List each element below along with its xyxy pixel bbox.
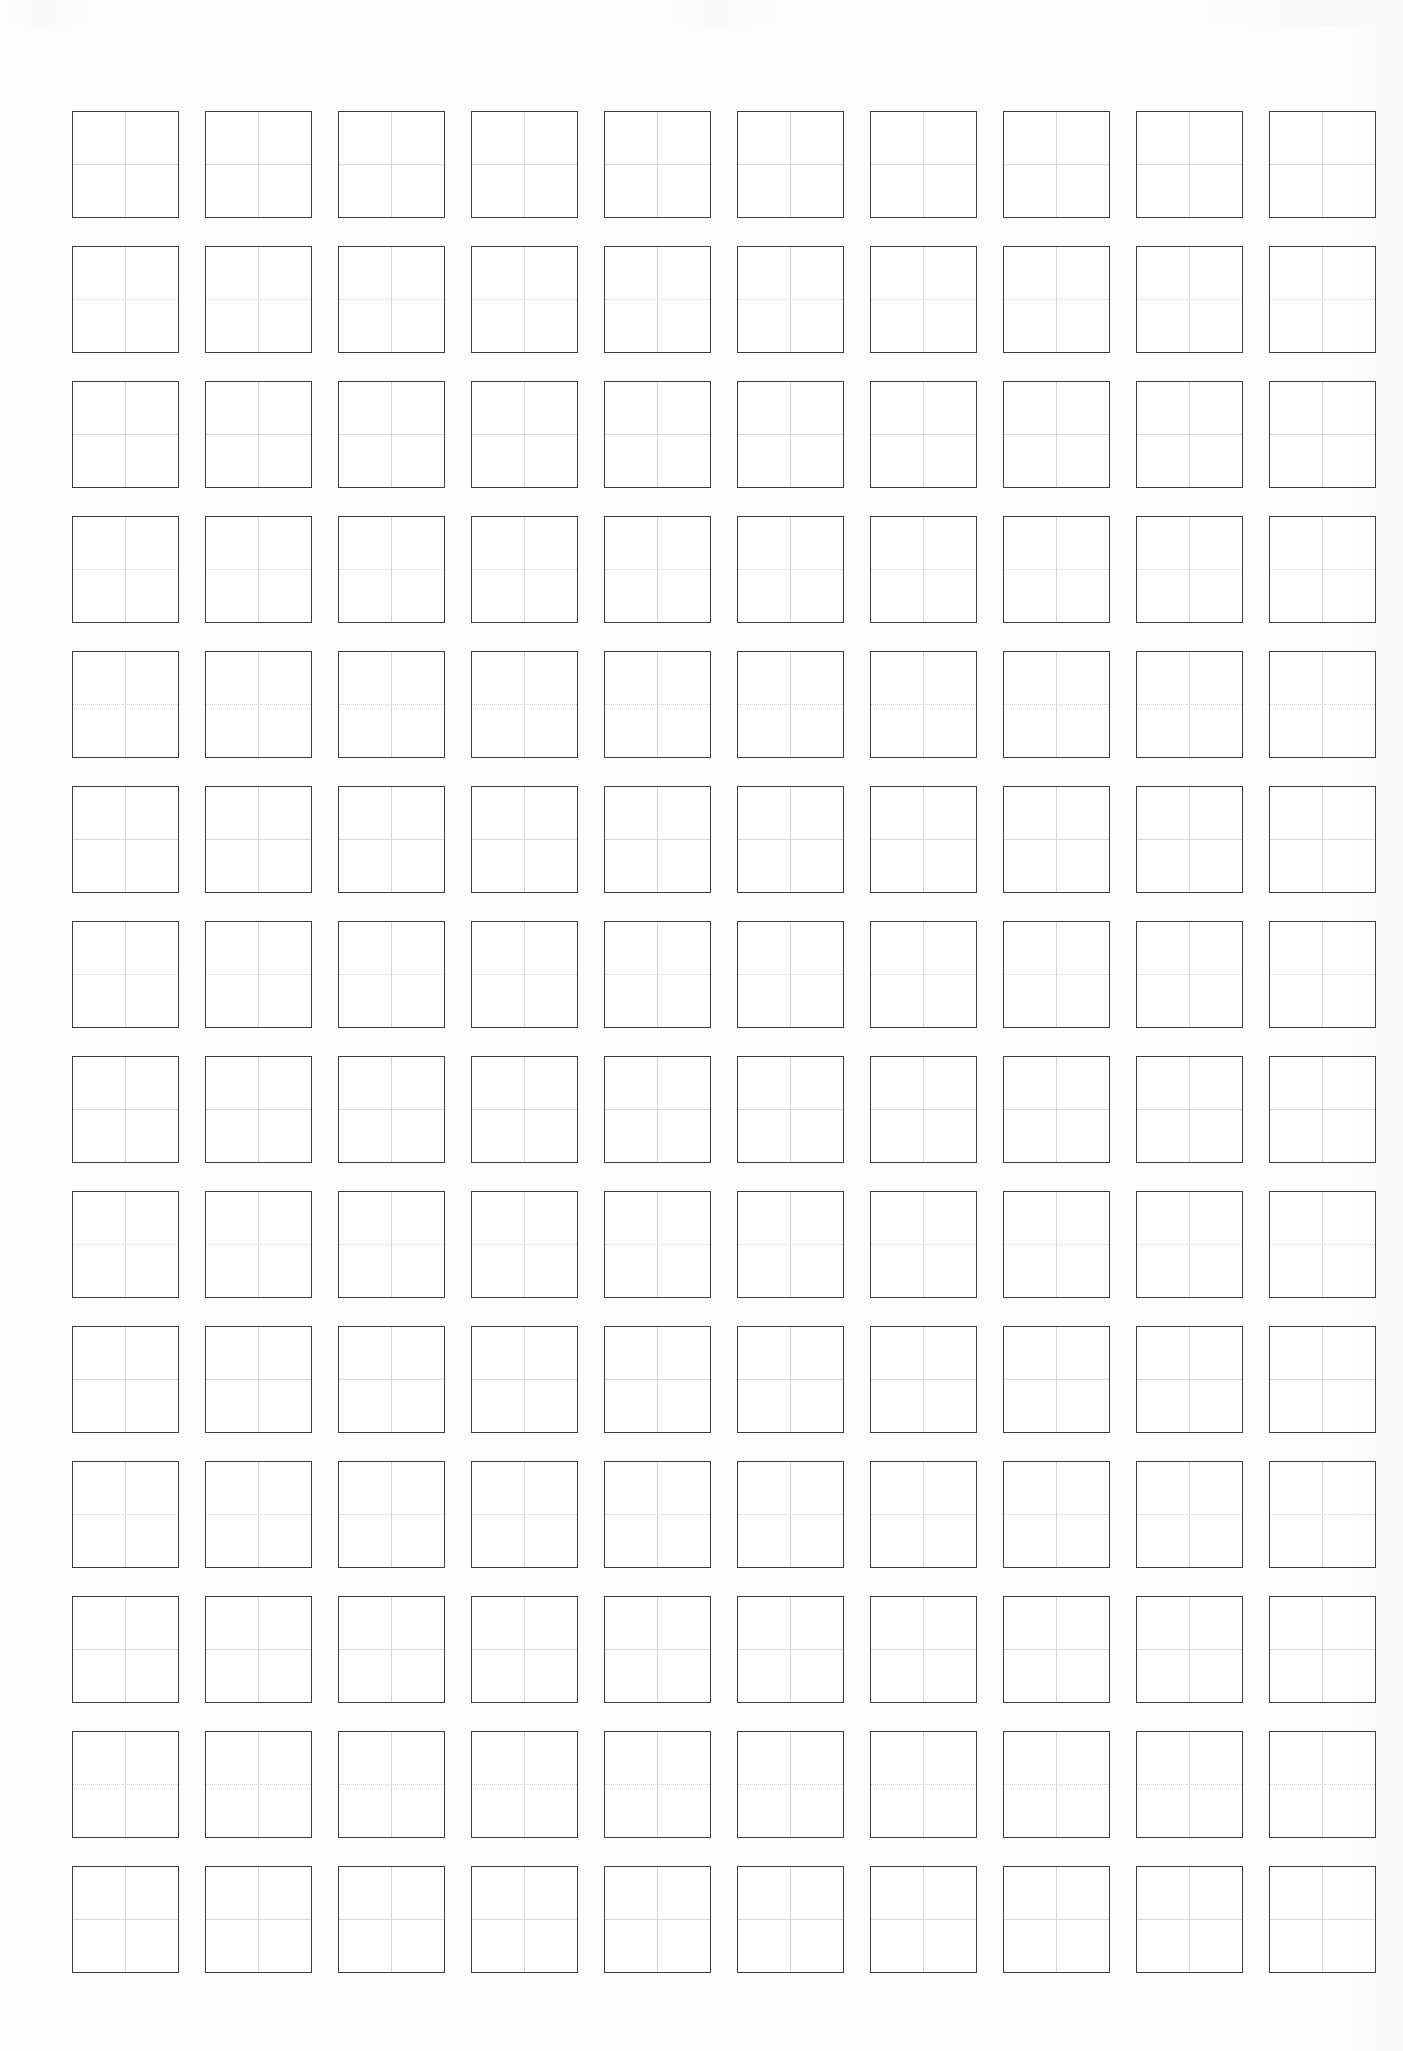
practice-cell[interactable]	[737, 651, 844, 758]
practice-cell[interactable]	[1269, 111, 1376, 218]
practice-cell[interactable]	[338, 1056, 445, 1163]
practice-cell[interactable]	[338, 1326, 445, 1433]
practice-cell[interactable]	[471, 516, 578, 623]
practice-cell[interactable]	[471, 1056, 578, 1163]
practice-cell[interactable]	[471, 111, 578, 218]
practice-cell[interactable]	[338, 1461, 445, 1568]
practice-cell[interactable]	[870, 651, 977, 758]
practice-cell[interactable]	[1003, 786, 1110, 893]
practice-cell[interactable]	[338, 1866, 445, 1973]
practice-cell[interactable]	[1269, 1056, 1376, 1163]
practice-cell[interactable]	[737, 786, 844, 893]
practice-cell[interactable]	[870, 1596, 977, 1703]
practice-cell[interactable]	[72, 1056, 179, 1163]
practice-cell[interactable]	[205, 1731, 312, 1838]
practice-cell[interactable]	[338, 786, 445, 893]
practice-cell[interactable]	[1003, 921, 1110, 1028]
practice-cell[interactable]	[205, 111, 312, 218]
practice-cell[interactable]	[870, 1191, 977, 1298]
practice-cell[interactable]	[338, 111, 445, 218]
practice-cell[interactable]	[471, 1866, 578, 1973]
practice-cell[interactable]	[1136, 516, 1243, 623]
practice-cell[interactable]	[1136, 381, 1243, 488]
practice-cell[interactable]	[1003, 516, 1110, 623]
practice-cell[interactable]	[1003, 1056, 1110, 1163]
practice-cell[interactable]	[205, 786, 312, 893]
practice-cell[interactable]	[205, 1326, 312, 1433]
practice-cell[interactable]	[1003, 381, 1110, 488]
practice-cell[interactable]	[1136, 1866, 1243, 1973]
practice-cell[interactable]	[1269, 246, 1376, 353]
practice-cell[interactable]	[338, 651, 445, 758]
practice-cell[interactable]	[72, 786, 179, 893]
practice-cell[interactable]	[1136, 1461, 1243, 1568]
practice-cell[interactable]	[205, 516, 312, 623]
practice-cell[interactable]	[205, 1461, 312, 1568]
practice-cell[interactable]	[338, 1596, 445, 1703]
practice-cell[interactable]	[1269, 1326, 1376, 1433]
practice-cell[interactable]	[737, 1731, 844, 1838]
practice-cell[interactable]	[604, 651, 711, 758]
practice-cell[interactable]	[471, 1731, 578, 1838]
practice-cell[interactable]	[1136, 1326, 1243, 1433]
practice-cell[interactable]	[870, 1866, 977, 1973]
practice-cell[interactable]	[1003, 651, 1110, 758]
practice-cell[interactable]	[737, 1461, 844, 1568]
practice-cell[interactable]	[205, 1596, 312, 1703]
practice-cell[interactable]	[72, 381, 179, 488]
practice-cell[interactable]	[737, 1326, 844, 1433]
practice-cell[interactable]	[72, 651, 179, 758]
practice-cell[interactable]	[338, 381, 445, 488]
practice-cell[interactable]	[471, 921, 578, 1028]
practice-cell[interactable]	[870, 246, 977, 353]
practice-cell[interactable]	[604, 1326, 711, 1433]
practice-cell[interactable]	[604, 1191, 711, 1298]
practice-cell[interactable]	[1269, 786, 1376, 893]
practice-cell[interactable]	[205, 1191, 312, 1298]
practice-cell[interactable]	[1269, 921, 1376, 1028]
practice-cell[interactable]	[737, 1866, 844, 1973]
practice-cell[interactable]	[1136, 111, 1243, 218]
practice-cell[interactable]	[1003, 1326, 1110, 1433]
practice-cell[interactable]	[338, 1191, 445, 1298]
practice-cell[interactable]	[205, 1866, 312, 1973]
practice-cell[interactable]	[737, 516, 844, 623]
practice-cell[interactable]	[604, 1461, 711, 1568]
practice-cell[interactable]	[205, 921, 312, 1028]
practice-cell[interactable]	[205, 651, 312, 758]
practice-cell[interactable]	[72, 246, 179, 353]
practice-cell[interactable]	[1136, 651, 1243, 758]
practice-cell[interactable]	[471, 1326, 578, 1433]
practice-cell[interactable]	[471, 246, 578, 353]
practice-cell[interactable]	[1136, 786, 1243, 893]
practice-cell[interactable]	[205, 1056, 312, 1163]
practice-cell[interactable]	[72, 1596, 179, 1703]
practice-cell[interactable]	[205, 381, 312, 488]
practice-cell[interactable]	[72, 1866, 179, 1973]
practice-cell[interactable]	[1269, 1461, 1376, 1568]
practice-cell[interactable]	[604, 786, 711, 893]
practice-cell[interactable]	[72, 1191, 179, 1298]
practice-cell[interactable]	[1003, 246, 1110, 353]
practice-cell[interactable]	[870, 516, 977, 623]
practice-cell[interactable]	[870, 921, 977, 1028]
practice-cell[interactable]	[471, 381, 578, 488]
practice-cell[interactable]	[870, 1326, 977, 1433]
practice-cell[interactable]	[737, 921, 844, 1028]
practice-cell[interactable]	[72, 111, 179, 218]
practice-cell[interactable]	[338, 921, 445, 1028]
practice-cell[interactable]	[604, 516, 711, 623]
practice-cell[interactable]	[604, 1056, 711, 1163]
practice-cell[interactable]	[1003, 111, 1110, 218]
practice-cell[interactable]	[737, 1056, 844, 1163]
practice-cell[interactable]	[604, 246, 711, 353]
practice-cell[interactable]	[604, 921, 711, 1028]
practice-cell[interactable]	[1269, 1866, 1376, 1973]
practice-cell[interactable]	[870, 1731, 977, 1838]
practice-cell[interactable]	[870, 786, 977, 893]
practice-cell[interactable]	[737, 246, 844, 353]
practice-cell[interactable]	[1269, 651, 1376, 758]
practice-cell[interactable]	[604, 111, 711, 218]
practice-cell[interactable]	[471, 1596, 578, 1703]
practice-cell[interactable]	[1269, 1596, 1376, 1703]
